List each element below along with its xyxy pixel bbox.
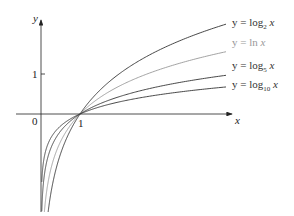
curve-label-3: y = log10 x <box>232 78 278 93</box>
curve-label-1: y = ln x <box>232 36 266 48</box>
x-tick-label: 1 <box>78 117 84 129</box>
curve-3 <box>42 87 226 182</box>
curve-1 <box>44 52 226 212</box>
curve-label-0: y = log2 x <box>232 16 275 31</box>
y-tick-label: 1 <box>32 68 38 80</box>
x-axis-label: x <box>234 114 240 126</box>
origin-label: 0 <box>32 115 38 127</box>
y-axis-label: y <box>32 12 38 24</box>
logarithm-graph: x y 0 1 1 y = log2 xy = ln xy = log5 xy … <box>0 0 294 216</box>
curve-label-2: y = log5 x <box>232 59 275 74</box>
curve-2 <box>42 75 226 211</box>
